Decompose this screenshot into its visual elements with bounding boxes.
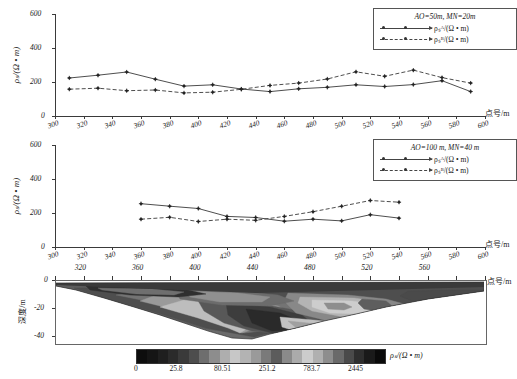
top-y-tick-label: 400 xyxy=(30,43,41,52)
section-x-tick-label: 400 xyxy=(189,263,200,272)
colorbar-tick-label: 0 xyxy=(134,364,138,373)
colorbar-band xyxy=(189,350,199,363)
legend-symbol-dashed xyxy=(380,166,432,175)
colorbar-band xyxy=(364,350,374,363)
colorbar-band xyxy=(251,350,261,363)
colorbar-band xyxy=(199,350,209,363)
data-point xyxy=(96,73,100,77)
x-tick-label: 580 xyxy=(448,118,461,130)
x-tick-label: 540 xyxy=(390,118,403,130)
colorbar-band xyxy=(344,350,354,363)
section-y-axis-title: 深度/m xyxy=(16,292,27,332)
colorbar-tick-label: 251.2 xyxy=(259,364,276,373)
data-point xyxy=(196,206,200,210)
colorbar-band xyxy=(178,350,188,363)
data-point xyxy=(311,217,315,221)
legend-label: ρₛᴮ/(Ω • m) xyxy=(434,166,469,175)
mid-chart-y-axis-title: ρₛ/(Ω • m) xyxy=(11,166,21,226)
data-point xyxy=(397,216,401,220)
data-point xyxy=(96,86,100,90)
x-tick-label: 520 xyxy=(362,118,375,130)
data-point xyxy=(383,74,387,78)
data-point xyxy=(340,204,344,208)
data-point xyxy=(397,200,401,204)
colorbar-tick-label: 783.7 xyxy=(303,364,320,373)
colorbar-band xyxy=(292,350,302,363)
colorbar-tick-label: 2445 xyxy=(348,364,363,373)
data-point xyxy=(239,87,243,91)
colorbar-band xyxy=(313,350,323,363)
data-point xyxy=(354,83,358,87)
section-x-tick-label: 440 xyxy=(247,263,258,272)
data-point xyxy=(469,89,473,93)
series-line-2 xyxy=(141,201,399,222)
x-tick-label: 400 xyxy=(190,118,203,130)
legend-entry-2: ρₛᴮ/(Ω • m) xyxy=(380,34,510,45)
top-chart-legend: AO=50m, MN=20m ρₛᴬ/(Ω • m) ρₛᴮ/(Ω • m) xyxy=(373,8,517,50)
data-point xyxy=(383,84,387,88)
top-y-tick-label: 600 xyxy=(30,9,41,18)
colorbar-band xyxy=(220,350,230,363)
section-y-tick-label: -40 xyxy=(34,331,44,340)
legend-symbol-dashed xyxy=(380,35,432,44)
top-chart-panel: 600 400 200 0 ρₛ/(Ω • m) 300320340360380… xyxy=(0,0,517,133)
data-point xyxy=(196,219,200,223)
legend-entry-2: ρₛᴮ/(Ω • m) xyxy=(380,165,510,176)
data-point xyxy=(139,217,143,221)
data-point xyxy=(182,84,186,88)
x-tick-label: 320 xyxy=(75,118,88,130)
x-tick-label: 300 xyxy=(46,118,59,130)
colorbar-band xyxy=(168,350,178,363)
data-point xyxy=(325,77,329,81)
section-y-tick-label: -20 xyxy=(34,303,44,312)
data-point xyxy=(340,219,344,223)
section-x-tick-label: 360 xyxy=(132,263,143,272)
x-tick-label: 380 xyxy=(161,118,174,130)
data-point xyxy=(182,91,186,95)
legend-title: AO=100 m, MN=40 m xyxy=(380,143,510,152)
legend-label: ρₛᴬ/(Ω • m) xyxy=(434,155,469,164)
top-y-tick-label: 0 xyxy=(41,111,45,120)
legend-label: ρₛᴬ/(Ω • m) xyxy=(434,24,469,33)
x-tick-label: 340 xyxy=(104,118,117,130)
colorbar-band xyxy=(137,350,147,363)
data-point xyxy=(67,87,71,91)
colorbar-band xyxy=(375,350,385,363)
data-point xyxy=(297,81,301,85)
data-point xyxy=(168,204,172,208)
colorbar-band xyxy=(209,350,219,363)
data-point xyxy=(368,213,372,217)
colorbar-band xyxy=(158,350,168,363)
data-point xyxy=(211,90,215,94)
mid-y-tick-label: 200 xyxy=(30,208,41,217)
section-plot-frame xyxy=(55,280,487,345)
data-point xyxy=(282,219,286,223)
data-point xyxy=(469,81,473,85)
x-tick-label: 560 xyxy=(419,118,432,130)
data-point xyxy=(153,77,157,81)
data-point xyxy=(282,214,286,218)
section-x-tick-label: 520 xyxy=(361,263,372,272)
colorbar-band xyxy=(261,350,271,363)
colorbar-band xyxy=(323,350,333,363)
data-point xyxy=(211,83,215,87)
mid-y-tick-label: 400 xyxy=(30,174,41,183)
data-point xyxy=(254,218,258,222)
data-point xyxy=(325,85,329,89)
x-tick-label: 500 xyxy=(333,118,346,130)
data-point xyxy=(311,210,315,214)
data-point xyxy=(440,76,444,80)
section-x-tick-label: 560 xyxy=(419,263,430,272)
resistivity-colorbar xyxy=(136,349,386,364)
data-point xyxy=(411,82,415,86)
x-tick-label: 360 xyxy=(132,118,145,130)
data-point xyxy=(411,68,415,72)
data-point xyxy=(368,198,372,202)
data-point xyxy=(225,217,229,221)
section-x-tick-label: 320 xyxy=(75,263,86,272)
data-point xyxy=(354,70,358,74)
legend-symbol-solid xyxy=(380,24,432,33)
colorbar-band xyxy=(354,350,364,363)
resistivity-section-panel: 320360400440480520560 点号/m 0 -20 -40 深度/… xyxy=(0,258,517,379)
colorbar-band xyxy=(147,350,157,363)
